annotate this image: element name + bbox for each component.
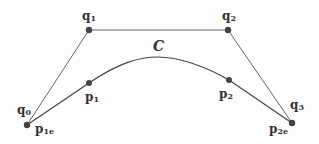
label-p1: p1 — [85, 90, 99, 104]
label-p2e: p2e — [269, 122, 288, 136]
label-curve-c: C — [153, 38, 164, 54]
diagram-canvas: q1 q2 q0 q3 p1 p2 p1e p2e C — [0, 0, 319, 144]
label-q0: q0 — [17, 103, 31, 117]
label-p2: p2 — [219, 87, 233, 101]
point-q1 — [86, 27, 92, 33]
point-q2 — [225, 27, 231, 33]
label-q2: q2 — [222, 9, 236, 23]
label-p1e: p1e — [35, 122, 54, 136]
label-q1: q1 — [82, 9, 96, 23]
curve-c — [27, 57, 292, 125]
point-p2 — [226, 77, 232, 83]
point-p1 — [86, 80, 92, 86]
label-q3: q3 — [290, 98, 304, 112]
point-q0-p1e — [24, 122, 30, 128]
bezier-diagram: q1 q2 q0 q3 p1 p2 p1e p2e C — [0, 0, 319, 144]
point-q3-p2e — [289, 120, 295, 126]
